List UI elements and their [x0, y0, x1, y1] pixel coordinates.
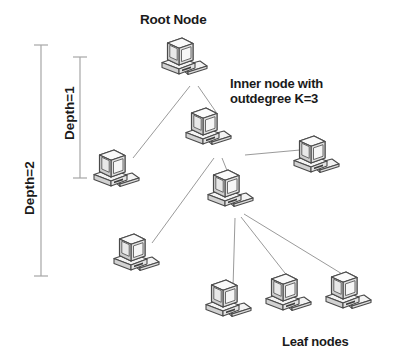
edge-mid-leafE — [241, 217, 292, 282]
node-leaf-lower-left[interactable] — [114, 234, 159, 270]
node-inner-k3[interactable] — [186, 108, 231, 144]
edges-layer — [133, 86, 352, 288]
node-leaf-bottom-1[interactable] — [206, 280, 251, 316]
edge-root-leafA — [133, 86, 190, 158]
node-leaf-bottom-2[interactable] — [266, 274, 311, 310]
edge-mid-leafD — [233, 218, 235, 288]
inner-node-label-line2: outdegree K=3 — [230, 91, 318, 106]
root-node-label: Root Node — [140, 12, 206, 28]
node-leaf-bottom-3[interactable] — [326, 272, 371, 308]
diagram-canvas — [0, 0, 395, 362]
edge-inner-leafB — [245, 150, 300, 155]
edge-inner-leafC — [152, 158, 214, 243]
depth-2-label: Depth=2 — [22, 161, 37, 215]
node-leaf-right[interactable] — [294, 136, 339, 172]
inner-node-label: Inner node withoutdegree K=3 — [230, 76, 323, 107]
edge-mid-leafF — [244, 214, 352, 280]
tree-topology-diagram: Root Node Inner node withoutdegree K=3 L… — [0, 0, 395, 362]
node-leaf-left[interactable] — [94, 150, 139, 186]
depth-brackets-layer — [34, 45, 87, 276]
inner-node-label-line1: Inner node with — [230, 76, 323, 91]
leaf-nodes-label: Leaf nodes — [282, 334, 349, 349]
node-root[interactable] — [162, 38, 207, 74]
depth-1-label: Depth=1 — [62, 86, 77, 140]
node-inner-middle[interactable] — [208, 170, 253, 206]
